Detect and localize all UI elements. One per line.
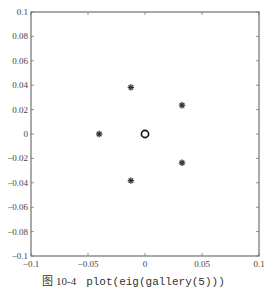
figure-caption: 图 10-4plot(eig(gallery(5))) <box>0 272 267 288</box>
x-tick-label: −0.1 <box>23 259 39 269</box>
y-tick-label: 0.04 <box>12 80 28 90</box>
x-tick-label: 0 <box>143 259 148 269</box>
asterisk-marker <box>128 84 134 90</box>
y-tick-label: 0.06 <box>12 56 28 66</box>
axes-box <box>31 12 259 256</box>
asterisk-marker <box>179 102 185 108</box>
asterisk-marker <box>128 177 134 183</box>
y-tick-label: 0.02 <box>12 105 28 115</box>
scatter-plot: 0.10.080.060.040.020−0.02−0.04−0.06−0.08… <box>0 0 267 270</box>
y-tick-label: 0.1 <box>17 7 28 17</box>
y-tick-label: −0.04 <box>7 178 28 188</box>
y-tick-label: −0.06 <box>7 202 28 212</box>
y-tick-label: −0.02 <box>7 153 28 163</box>
data-points <box>96 84 185 184</box>
plot-frame <box>31 12 259 256</box>
circle-marker <box>141 130 148 137</box>
y-tick-label: −0.08 <box>7 227 28 237</box>
asterisk-marker <box>179 160 185 166</box>
axis-ticks <box>31 12 259 256</box>
y-tick-label: 0.08 <box>12 31 28 41</box>
y-tick-label: 0 <box>24 129 29 139</box>
caption-code: plot(eig(gallery(5))) <box>86 276 225 288</box>
figure-number: 图 10-4 <box>42 275 76 287</box>
x-tick-label: 0.1 <box>253 259 264 269</box>
x-tick-label: 0.05 <box>194 259 210 269</box>
x-tick-label: −0.05 <box>78 259 99 269</box>
x-axis-tick-labels: −0.1−0.0500.050.1 <box>23 259 265 269</box>
y-axis-tick-labels: 0.10.080.060.040.020−0.02−0.04−0.06−0.08… <box>7 7 28 261</box>
asterisk-marker <box>96 131 102 137</box>
